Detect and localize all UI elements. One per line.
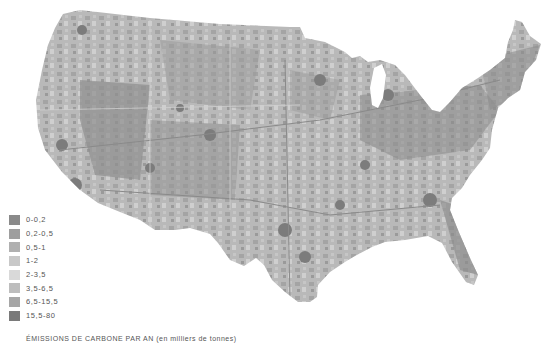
legend-swatch: [9, 242, 20, 252]
legend-caption: ÉMISSIONS DE CARBONE PAR AN (en milliers…: [26, 335, 237, 342]
legend-item: 1-2: [9, 254, 58, 268]
legend: 0-0,2 0,2-0,5 0,5-1 1-2 2-3,5 3,5-6,5 6,…: [9, 213, 58, 323]
legend-swatch: [9, 270, 20, 280]
legend-label: 0-0,2: [26, 215, 46, 224]
legend-item: 3,5-6,5: [9, 281, 58, 295]
legend-item: 2-3,5: [9, 268, 58, 282]
legend-label: 0,2-0,5: [26, 229, 54, 238]
legend-label: 3,5-6,5: [26, 284, 54, 293]
legend-swatch: [9, 229, 20, 239]
us-carbon-map: [0, 0, 551, 345]
legend-label: 1-2: [26, 256, 39, 265]
legend-item: 6,5-15,5: [9, 295, 58, 309]
legend-item: 0,5-1: [9, 240, 58, 254]
legend-item: 0,2-0,5: [9, 227, 58, 241]
legend-swatch: [9, 311, 20, 321]
legend-item: 15,5-80: [9, 309, 58, 323]
legend-label: 15,5-80: [26, 311, 56, 320]
legend-label: 2-3,5: [26, 270, 46, 279]
legend-swatch: [9, 283, 20, 293]
legend-label: 0,5-1: [26, 243, 46, 252]
legend-label: 6,5-15,5: [26, 297, 58, 306]
legend-swatch: [9, 297, 20, 307]
legend-swatch: [9, 256, 20, 266]
legend-swatch: [9, 215, 20, 225]
legend-item: 0-0,2: [9, 213, 58, 227]
